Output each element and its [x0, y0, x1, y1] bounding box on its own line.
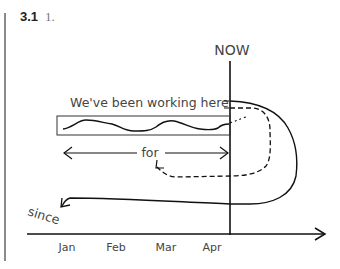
month-label: Jan	[58, 241, 76, 254]
working-label: We've been working here	[70, 95, 229, 110]
dashed-loop	[157, 108, 270, 177]
month-label: Apr	[202, 241, 222, 254]
working-period-box	[57, 116, 230, 135]
dotted-link	[230, 117, 246, 123]
for-label: for	[141, 145, 159, 160]
now-label: NOW	[214, 42, 249, 58]
timeline-diagram: NOW We've been working here for since Ja…	[0, 0, 340, 269]
month-label: Mar	[156, 241, 177, 254]
activity-wave	[63, 120, 229, 131]
month-label: Feb	[106, 241, 125, 254]
since-label: since	[26, 204, 62, 228]
